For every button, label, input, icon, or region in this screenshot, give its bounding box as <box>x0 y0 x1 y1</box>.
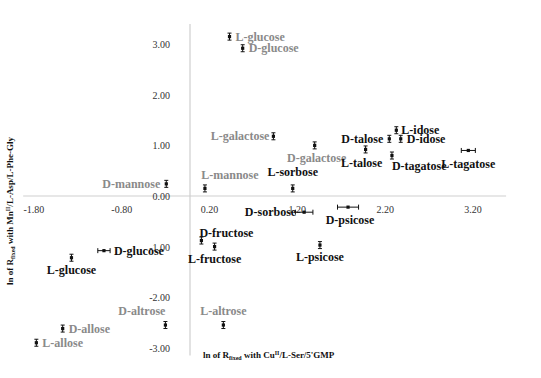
y-tick-label: -2.00 <box>149 292 170 303</box>
y-axis-title-text: ln of Rfixed with MnII/L-Asp/L-Phe-Gly <box>5 137 16 285</box>
data-point: D-talose <box>341 132 391 146</box>
point-label: L-galactose <box>211 129 270 143</box>
marker <box>70 256 73 259</box>
point-label: L-talose <box>341 156 383 170</box>
point-label: L-allose <box>42 336 83 350</box>
point-label: D-psicose <box>326 213 375 227</box>
data-point: D-allose <box>61 322 111 336</box>
data-point: L-fructose <box>188 243 242 266</box>
marker <box>213 245 216 248</box>
point-label: D-galactose <box>287 151 347 165</box>
marker <box>61 327 64 330</box>
data-points: L-glucoseD-glucoseL-galactoseD-galactose… <box>34 30 496 350</box>
scatter-plot: -1.80-0.800.201.202.203.20-3.00-2.00-1.0… <box>0 0 541 378</box>
data-point: D-idose <box>399 132 446 146</box>
marker <box>467 149 470 152</box>
data-point: D-glucose <box>98 244 165 258</box>
point-label: D-mannose <box>102 177 161 191</box>
marker <box>399 137 402 140</box>
x-tick-label: 3.20 <box>464 204 482 215</box>
data-point: L-galactose <box>211 129 276 143</box>
data-point: D-altrose <box>118 304 167 329</box>
x-axis-title: ln of Rfixed with CuII/L-Ser/5'GMP <box>203 350 335 361</box>
data-point: D-tagatose <box>390 152 447 173</box>
point-label: D-allose <box>69 322 111 336</box>
point-label: D-tagatose <box>392 159 447 173</box>
x-tick-label: -1.80 <box>24 204 45 215</box>
data-point: D-fructose <box>199 226 254 245</box>
marker <box>364 148 367 151</box>
x-axis-title-text: ln of Rfixed with CuII/L-Ser/5'GMP <box>203 350 335 361</box>
data-point: L-glucose <box>47 254 97 277</box>
marker <box>203 187 206 190</box>
point-label: D-altrose <box>118 304 166 318</box>
x-tick-label: 2.20 <box>376 204 394 215</box>
point-label: L-mannose <box>201 168 259 182</box>
marker <box>241 47 244 50</box>
axes: -1.80-0.800.201.202.203.20-3.00-2.00-1.0… <box>23 24 506 355</box>
marker <box>395 129 398 132</box>
data-point: D-mannose <box>102 177 168 191</box>
marker <box>303 211 306 214</box>
marker <box>165 182 168 185</box>
data-point: L-allose <box>34 336 83 350</box>
marker <box>164 323 167 326</box>
point-label: L-sorbose <box>267 165 318 179</box>
marker <box>272 135 275 138</box>
y-axis-title: ln of Rfixed with MnII/L-Asp/L-Phe-Gly <box>5 137 16 285</box>
data-point: L-talose <box>341 146 383 171</box>
point-label: L-glucose <box>47 263 97 277</box>
point-label: D-sorbose <box>245 205 297 219</box>
data-point: L-tagatose <box>441 148 496 172</box>
x-tick-label: -0.80 <box>111 204 132 215</box>
y-tick-label: 2.00 <box>153 90 171 101</box>
data-point: L-psicose <box>296 242 345 265</box>
data-point: L-sorbose <box>267 165 318 192</box>
y-tick-label: 3.00 <box>153 39 171 50</box>
marker <box>346 206 349 209</box>
marker <box>318 243 321 246</box>
marker <box>291 187 294 190</box>
marker <box>35 341 38 344</box>
point-label: D-glucose <box>114 244 165 258</box>
marker <box>102 249 105 252</box>
point-label: L-fructose <box>188 252 242 266</box>
y-tick-label: 1.00 <box>153 140 171 151</box>
data-point: D-psicose <box>326 205 375 228</box>
point-label: L-psicose <box>296 250 345 264</box>
data-point: D-glucose <box>241 41 300 55</box>
data-point: L-altrose <box>200 304 247 329</box>
point-label: L-tagatose <box>441 157 496 171</box>
marker <box>222 323 225 326</box>
y-tick-label: -3.00 <box>149 343 170 354</box>
marker <box>388 137 391 140</box>
point-label: D-glucose <box>249 41 300 55</box>
marker <box>390 154 393 157</box>
point-label: L-altrose <box>200 304 247 318</box>
x-tick-label: 0.20 <box>201 204 219 215</box>
marker <box>313 144 316 147</box>
point-label: D-idose <box>407 132 446 146</box>
y-tick-label: 0.00 <box>153 191 171 202</box>
marker <box>228 35 231 38</box>
point-label: D-talose <box>341 132 384 146</box>
data-point: D-galactose <box>287 142 347 166</box>
point-label: D-fructose <box>199 226 254 240</box>
data-point: L-mannose <box>201 168 259 192</box>
